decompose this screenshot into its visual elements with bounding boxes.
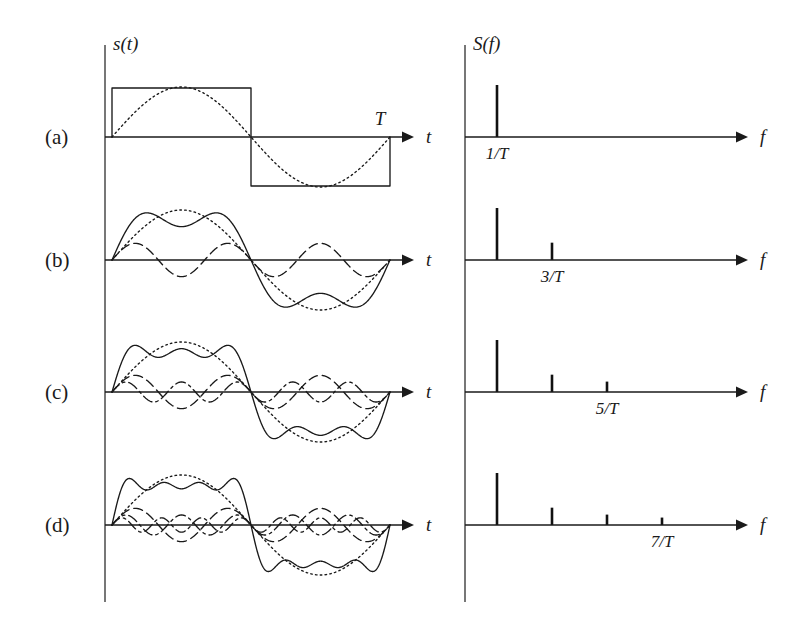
- row-label-d: (d): [45, 513, 70, 537]
- fourier-series-figure: s(t) S(f) (a)tTf1/T(b)tf3/T(c)tf5/T(d)tf…: [0, 0, 808, 632]
- time-axis-x-label: t: [426, 126, 432, 147]
- spectrum-tick-label: 3/T: [540, 267, 565, 286]
- time-domain-axis-label: s(t): [113, 33, 138, 55]
- spectrum-tick-label: 5/T: [596, 399, 620, 418]
- time-axis-x-label: t: [426, 249, 432, 270]
- spectrum-axis-label: S(f): [473, 33, 500, 55]
- spectrum-tick-label: 7/T: [651, 532, 675, 551]
- row-label-a: (a): [45, 125, 68, 149]
- time-axis-x-label: t: [426, 381, 432, 402]
- time-axis-x-label: t: [426, 514, 432, 535]
- spectrum-tick-label: 1/T: [486, 144, 510, 163]
- row-label-b: (b): [45, 248, 70, 272]
- row-label-c: (c): [45, 380, 68, 404]
- period-label-T: T: [375, 108, 387, 129]
- figure-background: [0, 0, 808, 632]
